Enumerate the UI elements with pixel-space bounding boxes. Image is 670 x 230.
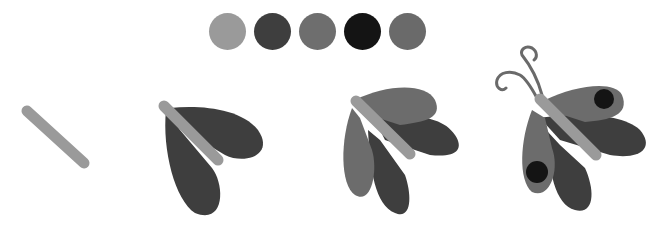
antenna-left bbox=[497, 72, 537, 98]
stage-1-body bbox=[27, 111, 84, 163]
wing-spot-bottom bbox=[526, 161, 548, 183]
stage-2-dark-wings bbox=[164, 106, 263, 215]
butterfly-steps bbox=[0, 0, 670, 230]
stage-4-complete bbox=[497, 47, 646, 211]
wing-spot-top bbox=[594, 89, 614, 109]
stage-3-mid-wings bbox=[343, 88, 458, 215]
